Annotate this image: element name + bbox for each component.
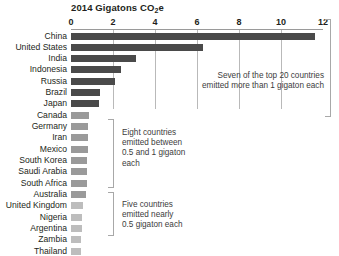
co2-emissions-bar-chart: 2014 Gigatons CO2e 024681012 ChinaUnited… (0, 0, 339, 256)
country-label: United Kingdom (0, 201, 67, 210)
country-label: Russia (0, 77, 67, 86)
chart-row: Japan (0, 99, 339, 110)
bracket-tier3-top-tick (108, 192, 113, 193)
x-axis-tick-label: 10 (276, 17, 286, 27)
country-label: Iran (0, 133, 67, 142)
bracket-tier1-bottom-tick (325, 116, 330, 117)
bar (71, 100, 99, 107)
annotation-tier2: Eight countries emitted between 0.5 and … (122, 128, 217, 169)
bar (71, 134, 88, 141)
chart-row: Zambia (0, 235, 339, 246)
bar (71, 191, 86, 198)
x-axis-tick-label: 8 (236, 17, 241, 27)
country-label: Canada (0, 111, 67, 120)
chart-row: Saudi Arabia (0, 167, 339, 178)
country-label: Thailand (0, 247, 67, 256)
country-label: Argentina (0, 224, 67, 233)
bracket-tier1-line (330, 19, 331, 117)
bar (71, 55, 136, 62)
bracket-tier3-line (113, 192, 114, 236)
bar (71, 78, 115, 85)
bar (71, 157, 87, 164)
x-axis-tick-label: 6 (194, 17, 199, 27)
bracket-tier1-top-tick (325, 19, 330, 20)
bar (71, 44, 203, 51)
x-axis-tick-label: 4 (152, 17, 157, 27)
bar (71, 66, 121, 73)
country-label: Mexico (0, 145, 67, 154)
bracket-tier2-line (113, 119, 114, 188)
bar (71, 214, 82, 221)
bar (71, 168, 87, 175)
country-label: Japan (0, 99, 67, 108)
bar (71, 248, 81, 255)
country-label: India (0, 54, 67, 63)
country-label: Saudi Arabia (0, 167, 67, 176)
x-axis-tick-label: 0 (68, 17, 73, 27)
country-label: United States (0, 43, 67, 52)
bar (71, 225, 82, 232)
bar (71, 236, 81, 243)
country-label: China (0, 32, 67, 41)
annotation-tier1: Seven of the top 20 countries emitted mo… (168, 71, 324, 91)
bracket-tier3-bottom-tick (108, 235, 113, 236)
bar (71, 33, 315, 40)
country-label: Indonesia (0, 65, 67, 74)
bar (71, 123, 88, 130)
bar (71, 146, 88, 153)
x-axis-tick-label: 2 (110, 17, 115, 27)
country-label: Zambia (0, 235, 67, 244)
bracket-tier2-top-tick (108, 119, 113, 120)
bar (71, 202, 83, 209)
country-label: Nigeria (0, 213, 67, 222)
bar (71, 180, 87, 187)
country-label: Brazil (0, 88, 67, 97)
country-label: South Africa (0, 179, 67, 188)
country-label: Germany (0, 122, 67, 131)
country-label: Australia (0, 190, 67, 199)
bracket-tier2-bottom-tick (108, 187, 113, 188)
chart-row: Thailand (0, 247, 339, 256)
country-label: South Korea (0, 156, 67, 165)
bar (71, 89, 100, 96)
bar (71, 112, 89, 119)
annotation-tier3: Five countries emitted nearly 0.5 gigato… (122, 200, 222, 231)
